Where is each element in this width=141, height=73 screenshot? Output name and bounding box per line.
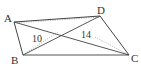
vertex-label-a: A bbox=[4, 12, 12, 24]
segment-label-14: 14 bbox=[81, 29, 91, 40]
quadrilateral-diagram: A B C D 10 14 bbox=[0, 0, 141, 73]
dotted-line-c bbox=[95, 37, 129, 55]
side-dc bbox=[100, 16, 129, 55]
vertex-label-d: D bbox=[97, 4, 105, 16]
vertex-label-b: B bbox=[11, 54, 18, 66]
side-ad bbox=[14, 16, 100, 22]
vertex-label-c: C bbox=[131, 52, 138, 64]
side-ab bbox=[14, 22, 23, 55]
segment-label-10: 10 bbox=[32, 33, 42, 44]
